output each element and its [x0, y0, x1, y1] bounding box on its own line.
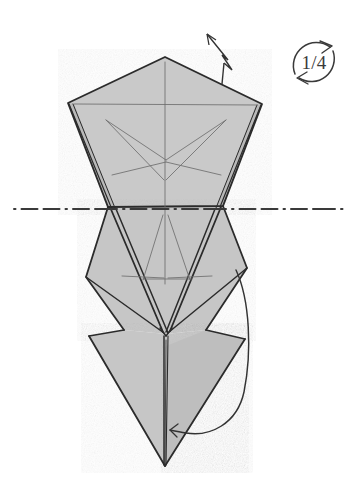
rotate-one-quarter-symbol: 1/4 [293, 41, 334, 84]
pull-out-arrow-zigzag [207, 34, 232, 70]
mid-panel-shape [86, 206, 247, 334]
pull-out-arrow [207, 34, 232, 84]
origami-diagram: 1/4 [0, 0, 356, 489]
pull-out-arrow-stem [222, 63, 224, 84]
figure-canvas: 1/4 [0, 0, 356, 489]
rotation-fraction-label: 1/4 [301, 52, 326, 73]
